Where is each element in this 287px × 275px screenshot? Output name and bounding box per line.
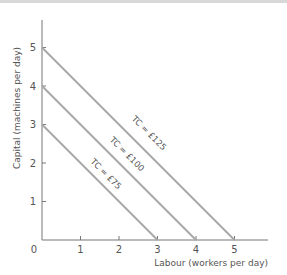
isocost-line-125: [42, 48, 235, 241]
y-tick-label: 4: [30, 81, 36, 92]
x-tick-label: 4: [193, 244, 199, 255]
y-axis-label: Capital (machines per day): [12, 47, 22, 169]
x-tick-label: 0: [31, 244, 37, 255]
x-axis-label: Labour (workers per day): [154, 258, 268, 268]
y-tick-label: 5: [30, 42, 36, 53]
y-tick-label: 2: [30, 158, 36, 169]
isocost-label-125: TC = £125: [129, 113, 168, 152]
x-tick-label: 2: [116, 244, 122, 255]
isocost-chart: 0 1 2 3 4 5 1 2 3 4 5 Labour (workers pe…: [0, 0, 287, 275]
isocost-line-100: [42, 86, 196, 240]
isocost-line-75: [42, 125, 158, 241]
y-tick-label: 3: [30, 119, 36, 130]
isocost-label-100: TC = £100: [107, 134, 146, 173]
x-tick-label: 5: [231, 244, 237, 255]
x-tick-label: 3: [154, 244, 160, 255]
x-tick-label: 1: [77, 244, 83, 255]
y-tick-label: 1: [30, 196, 36, 207]
